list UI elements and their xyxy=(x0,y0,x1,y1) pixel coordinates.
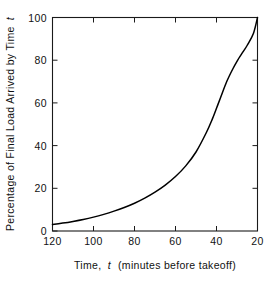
x-tick-label: 80 xyxy=(128,235,140,247)
y-axis-ticks-right xyxy=(253,60,258,188)
y-tick-label: 20 xyxy=(35,182,47,194)
x-tick-label: 60 xyxy=(169,235,181,247)
x-tick-label: 40 xyxy=(210,235,222,247)
x-tick-labels: 120 100 80 60 40 20 xyxy=(43,235,264,247)
x-axis-title-suffix: (minutes before takeoff) xyxy=(118,259,236,271)
line-chart: 0 20 40 60 80 100 120 100 80 60 40 20 Ti… xyxy=(0,0,276,285)
y-axis-title-prefix: Percentage of Final Load Arrived by Time xyxy=(4,26,16,231)
chart-figure: 0 20 40 60 80 100 120 100 80 60 40 20 Ti… xyxy=(0,0,276,285)
y-tick-label: 60 xyxy=(35,97,47,109)
y-axis-ticks-left xyxy=(53,18,58,232)
x-axis-ticks-bottom xyxy=(53,226,258,231)
x-axis-title: Time, t (minutes before takeoff) xyxy=(74,259,236,271)
y-tick-label: 40 xyxy=(35,140,47,152)
y-axis-title: Percentage of Final Load Arrived by Time… xyxy=(4,16,16,231)
y-tick-labels: 0 20 40 60 80 100 xyxy=(28,12,47,238)
y-axis-title-variable: t xyxy=(4,16,16,20)
y-tick-label: 100 xyxy=(28,12,47,24)
x-tick-label: 120 xyxy=(43,235,62,247)
y-tick-label: 80 xyxy=(35,54,47,66)
x-axis-ticks-top xyxy=(94,18,217,23)
plot-frame xyxy=(53,18,258,232)
x-tick-label: 20 xyxy=(251,235,263,247)
x-tick-label: 100 xyxy=(84,235,103,247)
x-axis-title-prefix: Time, xyxy=(74,259,101,271)
x-axis-title-variable: t xyxy=(108,259,112,271)
data-curve xyxy=(53,18,258,225)
